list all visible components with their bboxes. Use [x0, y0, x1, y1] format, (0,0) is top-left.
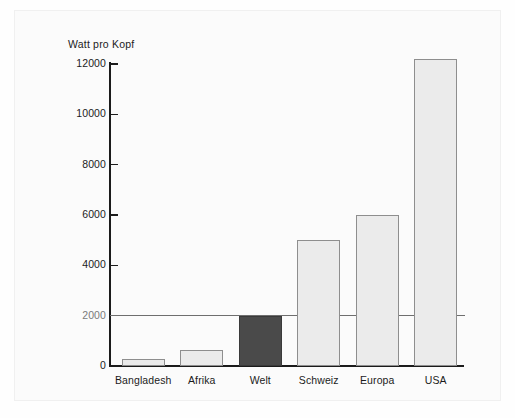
y-tick-label-wrap-12000: 12000 — [44, 57, 106, 71]
y-tick-label-8000: 8000 — [48, 158, 106, 170]
bar-bangladesh — [122, 359, 165, 366]
reference-line-2000 — [110, 315, 465, 317]
x-label-europa: Europa — [348, 374, 407, 386]
y-tick-4000 — [111, 265, 118, 267]
x-label-usa: USA — [407, 374, 466, 386]
y-tick-label-wrap-6000: 6000 — [44, 208, 106, 222]
bar-schweiz — [297, 240, 340, 366]
y-tick-6000 — [111, 214, 118, 216]
bar-afrika — [180, 350, 223, 366]
x-label-afrika: Afrika — [173, 374, 232, 386]
bar-usa — [414, 59, 457, 366]
y-tick-label-6000: 6000 — [48, 208, 106, 220]
y-tick-label-10000: 10000 — [48, 107, 106, 119]
x-label-schweiz: Schweiz — [290, 374, 349, 386]
x-label-welt: Welt — [231, 374, 290, 386]
y-tick-label-12000: 12000 — [48, 57, 106, 69]
plot-area: Watt pro Kopf 02000400060008000100001200… — [0, 0, 515, 418]
y-tick-0 — [111, 365, 118, 367]
y-tick-label-wrap-0: 0 — [44, 359, 106, 373]
y-tick-label-wrap-2000: 2000 — [44, 309, 106, 323]
y-tick-8000 — [111, 164, 118, 166]
y-tick-label-0: 0 — [48, 359, 106, 371]
y-tick-10000 — [111, 114, 118, 116]
y-tick-label-wrap-10000: 10000 — [44, 107, 106, 121]
bar-welt — [239, 316, 282, 366]
y-axis-title: Watt pro Kopf — [68, 38, 134, 50]
y-tick-label-2000: 2000 — [48, 309, 106, 321]
chart-figure: Watt pro Kopf 02000400060008000100001200… — [0, 0, 515, 418]
y-tick-label-wrap-4000: 4000 — [44, 258, 106, 272]
y-tick-12000 — [111, 63, 118, 65]
bar-europa — [356, 215, 399, 366]
y-tick-label-4000: 4000 — [48, 258, 106, 270]
y-tick-label-wrap-8000: 8000 — [44, 158, 106, 172]
x-label-bangladesh: Bangladesh — [114, 374, 173, 386]
